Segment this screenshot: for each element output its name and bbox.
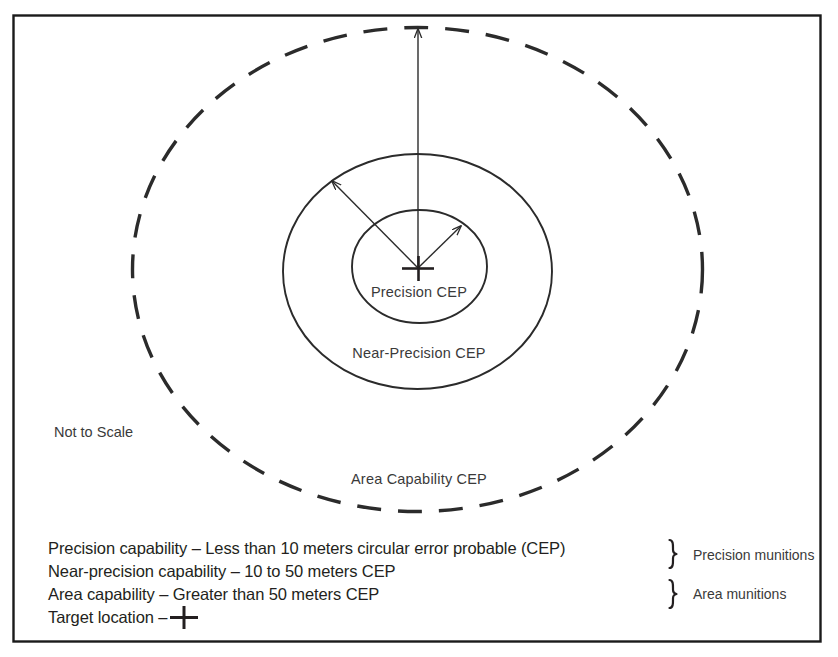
legend-row-near-precision-capability: Near-precision capability – 10 to 50 met… <box>48 562 396 580</box>
legend-group-area-munitions: Area munitions <box>693 586 786 602</box>
figure-root: Precision CEP Near-Precision CEP Area Ca… <box>0 0 838 657</box>
legend-row-precision-capability: Precision capability – Less than 10 mete… <box>48 539 565 557</box>
legend-group-precision-munitions: Precision munitions <box>693 547 814 563</box>
ring-label-area-capability: Area Capability CEP <box>351 471 487 487</box>
legend-row-target-location: Target location – <box>48 608 168 626</box>
cep-diagram-svg: Precision CEP Near-Precision CEP Area Ca… <box>0 0 838 657</box>
ring-label-near-precision: Near-Precision CEP <box>352 345 485 361</box>
ring-label-precision: Precision CEP <box>371 284 467 300</box>
not-to-scale-note: Not to Scale <box>54 424 133 440</box>
legend-row-area-capability: Area capability – Greater than 50 meters… <box>48 585 379 603</box>
